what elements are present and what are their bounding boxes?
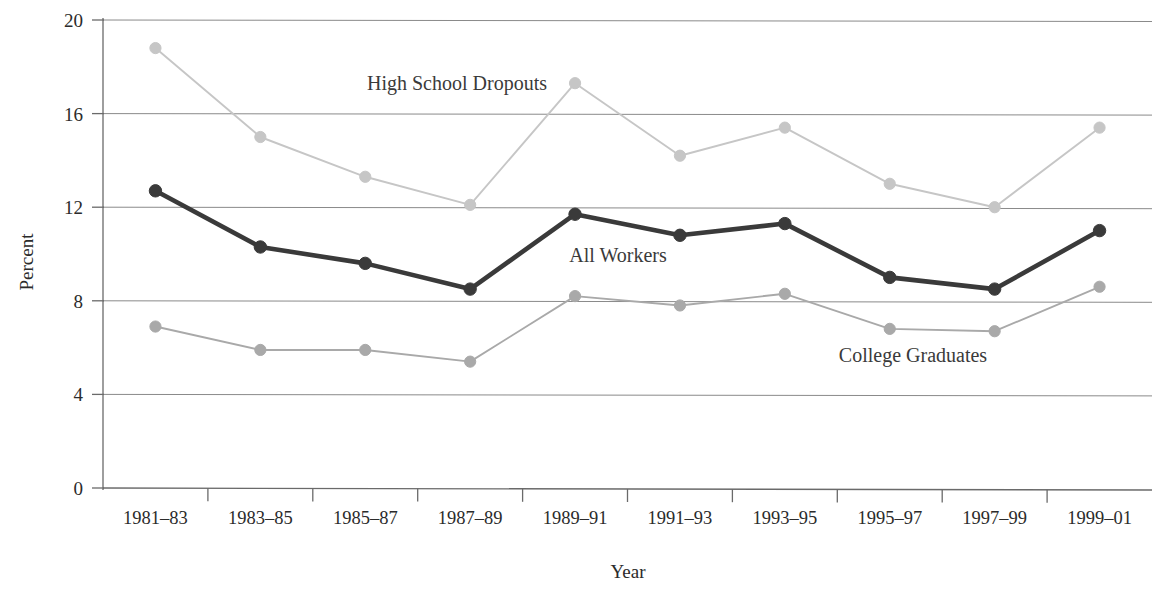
series-marker [989, 326, 1000, 337]
x-axis-tick-label: 1993–95 [752, 508, 817, 528]
series-marker [360, 344, 371, 355]
series-marker [465, 199, 476, 210]
x-axis-tick-label: 1983–85 [228, 508, 293, 528]
series-marker [779, 122, 790, 133]
series-marker [674, 150, 685, 161]
x-axis-tick-label: 1991–93 [648, 508, 713, 528]
x-axis-tick-label: 1987–89 [438, 508, 503, 528]
series-marker [988, 283, 1000, 295]
series-marker [149, 185, 161, 197]
series-marker [779, 288, 790, 299]
x-axis-tick-label: 1981–83 [123, 508, 188, 528]
series-marker [150, 42, 161, 53]
series-marker [464, 283, 476, 295]
series-marker [150, 321, 161, 332]
series-marker [255, 344, 266, 355]
y-axis-tick-label: 4 [74, 384, 84, 405]
series-marker [989, 202, 1000, 213]
y-axis-tick-label: 20 [64, 10, 83, 31]
series-marker [1093, 224, 1105, 236]
series-marker [254, 241, 266, 253]
y-axis-tick-label: 12 [64, 197, 83, 218]
y-axis-tick-label: 0 [74, 478, 84, 499]
series-marker [884, 271, 896, 283]
series-marker [1094, 281, 1105, 292]
series-marker [569, 208, 581, 220]
series-label-college-graduates: College Graduates [839, 344, 987, 367]
series-label-high-school-dropouts: High School Dropouts [367, 72, 547, 95]
line-chart-figure: 048121620 1981–831983–851985–871987–8919… [0, 0, 1166, 596]
series-label-all-workers: All Workers [569, 244, 667, 266]
series-marker [465, 356, 476, 367]
x-axis-title: Year [610, 561, 646, 582]
chart-canvas: 048121620 1981–831983–851985–871987–8919… [0, 0, 1166, 596]
series-marker [674, 300, 685, 311]
series-marker [569, 291, 580, 302]
series-marker [359, 257, 371, 269]
x-axis-tick-label: 1997–99 [962, 508, 1027, 528]
x-axis-tick-label: 1989–91 [543, 508, 608, 528]
x-axis-tick-label: 1995–97 [857, 508, 922, 528]
series-marker [569, 78, 580, 89]
series-marker [255, 131, 266, 142]
series-marker [674, 229, 686, 241]
series-marker [360, 171, 371, 182]
y-axis-tick-label: 16 [64, 104, 83, 125]
series-marker [1094, 122, 1105, 133]
series-marker [884, 178, 895, 189]
series-marker [779, 217, 791, 229]
x-axis-tick-label: 1999–01 [1067, 508, 1132, 528]
y-axis-title: Percent [16, 233, 37, 291]
series-marker [884, 323, 895, 334]
x-axis-tick-label: 1985–87 [333, 508, 398, 528]
y-axis-tick-label: 8 [74, 291, 84, 312]
